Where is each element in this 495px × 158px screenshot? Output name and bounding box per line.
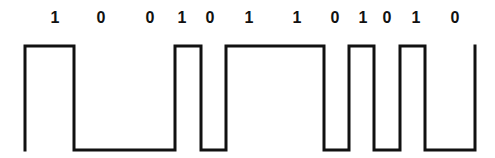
waveform-diagram: 1 0 0 1 0 1 1 0 1 0 1 0 xyxy=(0,0,495,158)
waveform-line xyxy=(25,46,475,150)
signal-waveform xyxy=(0,0,495,158)
